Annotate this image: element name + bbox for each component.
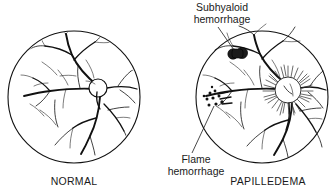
figure-canvas: NORMAL <box>0 0 330 195</box>
fundus-circle-normal <box>8 31 140 163</box>
fundus-comparison-figure: NORMAL <box>0 0 330 195</box>
fundus-circle-papilledema <box>196 31 328 163</box>
flame-label-line1: Flame <box>181 153 210 165</box>
optic-disc-normal <box>89 79 107 97</box>
panel-normal: NORMAL <box>8 23 142 187</box>
subhyaloid-label-line2: hemorrhage <box>194 13 251 25</box>
subhyaloid-hemorrhage-marker <box>228 47 248 59</box>
panel-papilledema: PAPILLEDEMA <box>196 24 328 187</box>
swollen-disc-body <box>275 77 301 103</box>
subhyaloid-label-line1: Subhyaloid <box>196 1 248 13</box>
caption-normal: NORMAL <box>51 175 98 187</box>
caption-papilledema: PAPILLEDEMA <box>230 175 305 187</box>
flame-label-line2: hemorrhage <box>168 165 225 177</box>
